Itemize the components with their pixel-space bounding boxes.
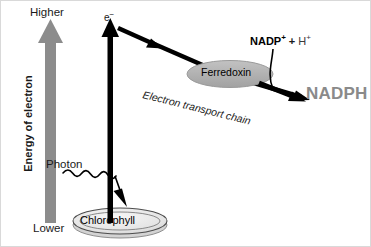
- energy-axis-arrow: [38, 19, 63, 223]
- nadph-arrow: [259, 83, 306, 102]
- ferredoxin-label: Ferredoxin: [201, 67, 251, 78]
- axis-top-label: Higher: [30, 7, 64, 19]
- nadp-symbol: NADP: [250, 35, 281, 47]
- axis-title: Energy of electron: [23, 59, 34, 189]
- chlorophyll-label: Chlorophyll: [80, 215, 135, 226]
- photosynthesis-energy-diagram: Higher Lower Energy of electron e− Photo…: [0, 0, 371, 247]
- diagram-vector-layer: [1, 1, 371, 247]
- axis-bottom-label: Lower: [33, 223, 64, 235]
- electron-label: e−: [104, 11, 114, 23]
- hydrogen-charge: +: [306, 33, 311, 42]
- plus-operator: +: [286, 35, 298, 47]
- nadp-feeder-line: [270, 49, 273, 89]
- photon-wavy-arrow: [63, 170, 127, 207]
- nadp-reactants-label: NADP++H+: [250, 34, 311, 47]
- photon-label: Photon: [46, 159, 82, 171]
- electron-charge: −: [110, 10, 115, 19]
- nadph-product-label: NADPH: [306, 85, 367, 102]
